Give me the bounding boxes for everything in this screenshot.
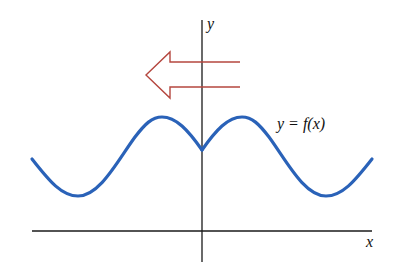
function-graph: y x y = f(x) — [0, 0, 397, 274]
left-arrow-icon — [146, 52, 240, 98]
y-axis-label: y — [207, 16, 214, 32]
curve-label: y = f(x) — [277, 116, 325, 132]
function-curve-left — [32, 117, 202, 196]
x-axis-label: x — [366, 234, 373, 250]
